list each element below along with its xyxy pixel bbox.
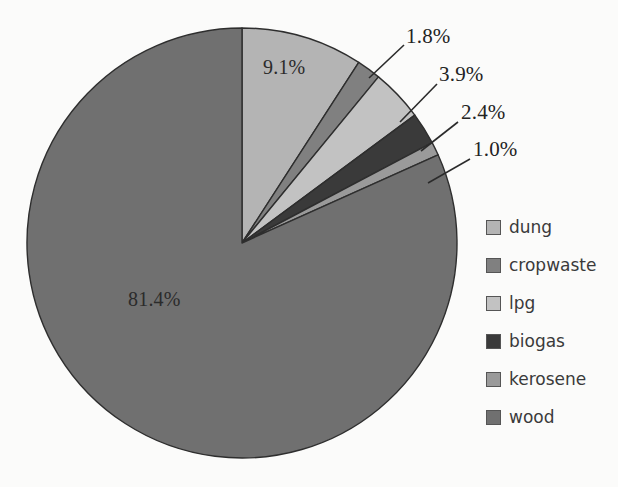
callout-label-kerosene: 1.0% [473,137,518,162]
callout-label-cropwaste: 1.8% [406,24,451,49]
legend-item-kerosene[interactable]: kerosene [486,360,614,398]
legend-item-wood[interactable]: wood [486,398,614,436]
legend-item-cropwaste[interactable]: cropwaste [486,246,614,284]
legend-item-dung[interactable]: dung [486,208,614,246]
pie-slices-group [27,28,457,458]
legend-label-kerosene: kerosene [509,371,586,388]
legend-swatch-lpg [486,296,501,311]
pie-chart-figure: 9.1% 81.4% 1.8% 3.9% 2.4% 1.0% dungcropw… [0,0,618,487]
legend-swatch-kerosene [486,372,501,387]
legend-label-wood: wood [509,409,555,426]
legend-swatch-wood [486,410,501,425]
legend-item-lpg[interactable]: lpg [486,284,614,322]
legend-label-dung: dung [509,219,552,236]
legend-swatch-cropwaste [486,258,501,273]
legend-label-cropwaste: cropwaste [509,257,596,274]
leader-line-cropwaste [369,45,404,78]
callout-label-biogas: 2.4% [461,100,506,125]
legend-label-biogas: biogas [509,333,565,350]
legend-label-lpg: lpg [509,295,535,312]
chart-legend: dungcropwastelpgbiogaskerosenewood [486,208,614,436]
legend-swatch-biogas [486,334,501,349]
slice-label-wood: 81.4% [128,288,181,311]
legend-item-biogas[interactable]: biogas [486,322,614,360]
legend-swatch-dung [486,220,501,235]
slice-label-dung: 9.1% [263,56,305,79]
callout-label-lpg: 3.9% [439,62,484,87]
